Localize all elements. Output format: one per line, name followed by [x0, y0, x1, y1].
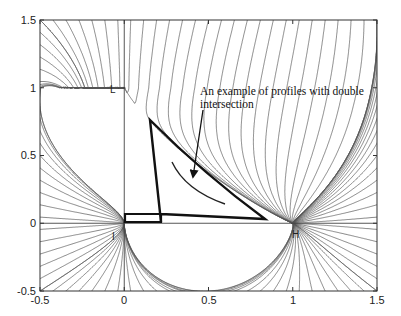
streamline — [377, 229, 385, 230]
streamline — [312, 291, 313, 297]
y-tick-label: 0 — [30, 217, 36, 229]
x-tick-label: 0.5 — [201, 294, 216, 306]
streamline — [260, 14, 262, 20]
streamline — [196, 14, 198, 20]
annotation-line2: intersection — [200, 98, 254, 110]
streamline — [32, 203, 40, 205]
x-tick-label: 0 — [121, 294, 127, 306]
streamline — [269, 291, 274, 297]
x-tick-label: 1 — [290, 294, 296, 306]
streamline — [377, 109, 385, 131]
streamline — [377, 279, 385, 284]
streamline — [32, 161, 40, 168]
phase-portrait-chart: An example of profiles with double inter… — [0, 0, 401, 316]
streamline — [377, 174, 385, 180]
label-H: H — [292, 229, 299, 240]
streamline — [144, 14, 145, 21]
streamline — [117, 291, 118, 297]
streamline — [32, 229, 40, 230]
y-tick-label: -0.5 — [17, 285, 36, 297]
streamline — [32, 26, 40, 32]
streamline — [48, 14, 53, 20]
streamline — [32, 39, 40, 45]
y-tick-label: 0.5 — [21, 149, 36, 161]
streamline — [76, 14, 79, 20]
streamline — [32, 128, 40, 144]
streamline — [131, 291, 132, 297]
streamline — [351, 291, 357, 298]
streamline — [33, 67, 41, 69]
streamline — [58, 291, 66, 298]
x-tick-label: 1.5 — [369, 294, 384, 306]
streamline — [325, 291, 328, 297]
y-tick-label: 1.5 — [21, 14, 36, 26]
streamline — [377, 254, 385, 257]
streamline — [32, 266, 40, 269]
streamline — [312, 14, 313, 21]
streamline — [377, 189, 385, 193]
streamline — [170, 291, 188, 298]
streamline — [338, 291, 342, 297]
streamline — [286, 14, 287, 20]
streamline — [183, 14, 184, 20]
streamline — [222, 14, 224, 20]
streamline — [102, 291, 105, 297]
label-L: L — [110, 84, 116, 95]
streamline — [377, 59, 385, 106]
streamline — [377, 203, 385, 205]
streamline — [90, 14, 92, 20]
streamline — [273, 14, 274, 20]
streamline — [299, 14, 300, 20]
streamline — [33, 254, 41, 256]
streamline — [170, 14, 171, 20]
streamline — [377, 266, 385, 270]
streamline — [232, 291, 247, 298]
streamline — [284, 291, 286, 297]
streamline — [157, 14, 158, 21]
streamline — [32, 189, 40, 192]
streamline — [157, 291, 166, 298]
streamline — [377, 216, 385, 217]
streamline — [377, 242, 385, 244]
streamline — [104, 14, 105, 21]
streamline — [377, 127, 385, 144]
streamline — [377, 14, 383, 94]
streamline — [32, 279, 40, 283]
streamline — [234, 14, 236, 20]
streamline — [32, 52, 40, 57]
y-axis-labels: -0.5 0 0.5 1 1.5 — [17, 14, 36, 297]
streamline — [247, 14, 249, 20]
streamline — [62, 13, 66, 20]
streamline — [377, 14, 381, 82]
streamline — [144, 291, 148, 298]
streamline — [338, 14, 339, 21]
label-I: I — [112, 231, 115, 242]
streamline — [377, 88, 385, 119]
streamline — [325, 14, 326, 21]
annotation-line1: An example of profiles with double — [200, 85, 364, 98]
y-tick-label: 1 — [30, 82, 36, 94]
streamline — [377, 159, 385, 168]
streamline — [32, 175, 40, 180]
streamline — [73, 291, 79, 298]
streamline — [209, 14, 211, 20]
streamline — [377, 143, 385, 155]
x-axis-labels: -0.5 0 0.5 1 1.5 — [31, 294, 385, 306]
streamline — [87, 291, 92, 297]
streamline — [252, 291, 261, 298]
streamline — [32, 242, 40, 244]
